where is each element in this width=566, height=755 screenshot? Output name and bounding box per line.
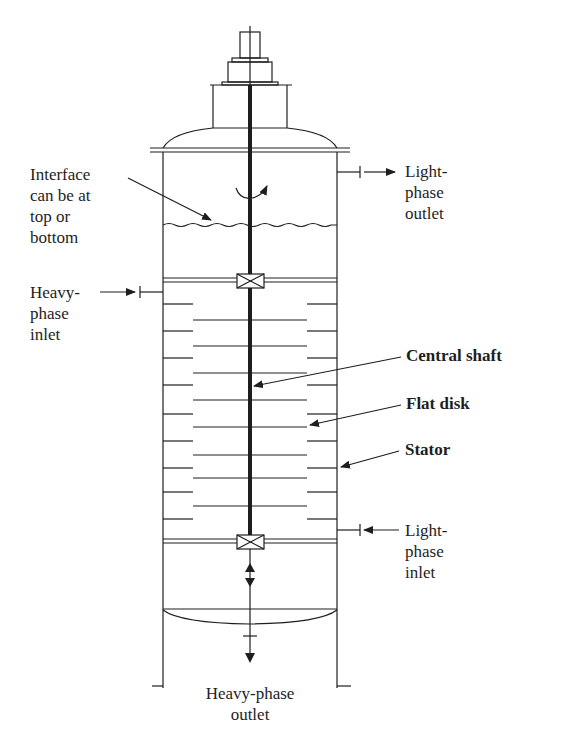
light-phase-inlet-nozzle	[337, 524, 399, 536]
light-phase-inlet-line-3: inlet	[405, 562, 448, 583]
light-phase-inlet-label: Light- phase inlet	[405, 520, 448, 583]
interface-pointer-arrow	[128, 178, 211, 220]
heavy-phase-inlet-line-1: Heavy-	[30, 282, 80, 303]
flat-disk-label: Flat disk	[406, 393, 470, 414]
lower-bearing	[237, 535, 264, 549]
light-phase-inlet-line-2: phase	[405, 541, 448, 562]
heavy-phase-outlet-line-2: outlet	[190, 704, 310, 725]
heavy-phase-outlet-label: Heavy-phase outlet	[190, 683, 310, 725]
outlet-down-arrowhead-icon	[245, 653, 255, 663]
light-phase-outlet-line-2: phase	[405, 182, 448, 203]
light-phase-outlet-label: Light- phase outlet	[405, 161, 448, 224]
heavy-phase-inlet-line-2: phase	[30, 303, 80, 324]
flat-disk-pointer-arrow	[310, 405, 401, 425]
light-phase-outlet-nozzle	[337, 166, 395, 178]
stator-pointer-arrow	[341, 451, 399, 467]
stator-text: Stator	[405, 439, 450, 460]
interface-note-line-3: top or	[30, 206, 90, 227]
central-shaft-pointer-arrow	[254, 357, 401, 386]
heavy-phase-inlet-nozzle	[100, 286, 163, 298]
heavy-phase-inlet-line-3: inlet	[30, 324, 80, 345]
heavy-phase-outlet-line-1: Heavy-phase	[190, 683, 310, 704]
central-shaft-text: Central shaft	[406, 345, 502, 366]
central-shaft-label: Central shaft	[406, 345, 502, 366]
interface-note-line-4: bottom	[30, 227, 90, 248]
flat-disk-text: Flat disk	[406, 393, 470, 414]
interface-note-line-1: Interface	[30, 164, 90, 185]
upper-bearing	[237, 274, 264, 288]
rotating-disk-contactor-diagram	[0, 0, 566, 755]
down-arrowhead-icon	[245, 578, 255, 587]
light-phase-inlet-line-1: Light-	[405, 520, 448, 541]
drive-coupling	[210, 26, 292, 85]
up-arrowhead-icon	[245, 563, 255, 572]
stator-label: Stator	[405, 439, 450, 460]
light-phase-outlet-line-3: outlet	[405, 203, 448, 224]
light-phase-outlet-line-1: Light-	[405, 161, 448, 182]
heavy-phase-inlet-label: Heavy- phase inlet	[30, 282, 80, 345]
interface-note-line-2: can be at	[30, 185, 90, 206]
interface-note-label: Interface can be at top or bottom	[30, 164, 90, 248]
